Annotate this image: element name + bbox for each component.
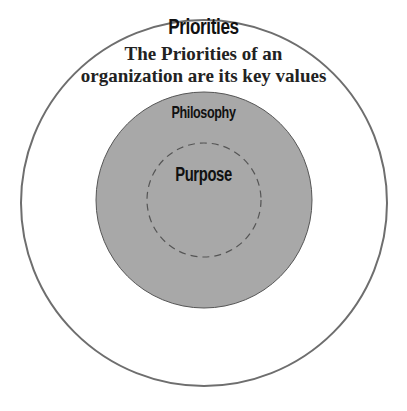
- priorities-heading: Priorities: [45, 14, 362, 40]
- description-line-1: The Priorities of an: [0, 43, 407, 65]
- middle-circle-philosophy: [96, 92, 312, 308]
- philosophy-heading: Philosophy: [53, 103, 354, 123]
- purpose-heading: Purpose: [53, 163, 354, 186]
- priorities-description: The Priorities of an organization are it…: [0, 43, 407, 87]
- description-line-2: organization are its key values: [0, 65, 407, 87]
